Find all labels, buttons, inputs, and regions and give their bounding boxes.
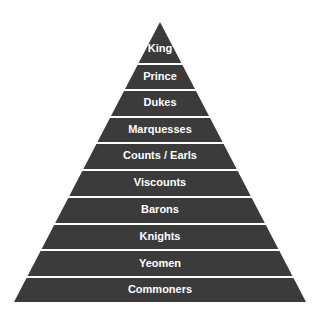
hierarchy-pyramid: King Prince Dukes Marquesses Counts / Ea… xyxy=(0,0,320,310)
level-label: Commoners xyxy=(128,283,192,295)
pyramid-level-knights: Knights xyxy=(42,225,279,249)
level-label: Barons xyxy=(141,203,179,215)
pyramid-level-dukes: Dukes xyxy=(111,91,209,116)
pyramid-level-king: King xyxy=(139,22,182,63)
level-label: Marquesses xyxy=(128,123,192,135)
level-label: Counts / Earls xyxy=(123,149,197,161)
pyramid-level-marquesses: Marquesses xyxy=(97,118,222,142)
level-label: Dukes xyxy=(143,96,176,108)
level-label: Viscounts xyxy=(134,176,186,188)
pyramid-level-commoners: Commoners xyxy=(14,278,306,302)
level-label: King xyxy=(148,42,172,54)
pyramid-level-yeomen: Yeomen xyxy=(28,251,293,276)
pyramid-level-barons: Barons xyxy=(55,198,265,223)
pyramid-level-viscounts: Viscounts xyxy=(69,171,250,196)
pyramid-level-counts-earls: Counts / Earls xyxy=(83,144,236,169)
pyramid-level-prince: Prince xyxy=(125,65,195,89)
level-label: Yeomen xyxy=(139,257,181,269)
level-label: Knights xyxy=(140,230,181,242)
level-label: Prince xyxy=(143,70,177,82)
